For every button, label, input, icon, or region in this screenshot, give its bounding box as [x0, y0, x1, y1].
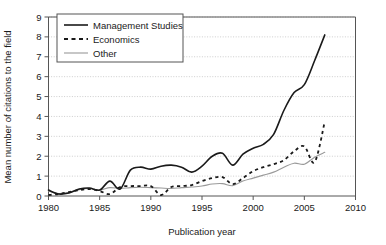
citations-line-chart-figure: 1980198519901995200020052010 0123456789 … — [0, 0, 386, 245]
x-tick-label-1980: 1980 — [38, 202, 59, 213]
x-tick-label-2000: 2000 — [243, 202, 264, 213]
legend: Management Studies Economics Other — [57, 14, 183, 62]
y-tick-label-6: 6 — [36, 71, 41, 82]
x-tick-label-1990: 1990 — [140, 202, 161, 213]
x-tick-label-2010: 2010 — [345, 202, 366, 213]
x-tick-label-1985: 1985 — [89, 202, 110, 213]
y-tick-label-3: 3 — [36, 131, 41, 142]
y-tick-label-8: 8 — [36, 31, 41, 42]
y-tick-label-0: 0 — [36, 191, 41, 202]
x-tick-label-1995: 1995 — [191, 202, 212, 213]
legend-label-other: Other — [93, 48, 117, 59]
x-tick-label-2005: 2005 — [294, 202, 315, 213]
y-tick-label-9: 9 — [36, 12, 41, 23]
chart-canvas: 1980198519901995200020052010 0123456789 … — [0, 0, 386, 245]
y-tick-label-4: 4 — [36, 111, 41, 122]
y-tick-label-1: 1 — [36, 171, 41, 182]
y-tick-label-2: 2 — [36, 151, 41, 162]
y-tick-label-5: 5 — [36, 91, 41, 102]
x-axis-title: Publication year — [168, 226, 236, 237]
y-tick-label-7: 7 — [36, 51, 41, 62]
legend-label-economics: Economics — [93, 34, 140, 45]
legend-label-management-studies: Management Studies — [93, 20, 183, 31]
y-axis-title: Mean number of citations to the field — [2, 30, 13, 183]
